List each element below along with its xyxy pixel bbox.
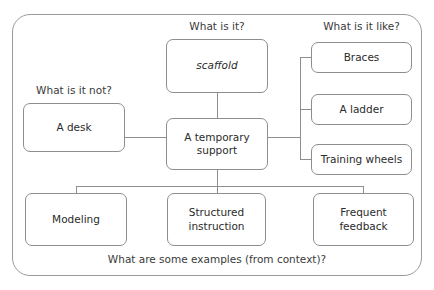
- connector-nonexample-to-definition: [125, 137, 166, 138]
- caption-what-is-it-like-text: What is it like?: [323, 20, 400, 32]
- node-example-frequent-feedback: Frequent feedback: [313, 193, 414, 246]
- connector-drop-frequent-feedback: [363, 186, 364, 193]
- node-term-scaffold: scaffold: [166, 39, 268, 93]
- connector-drop-structured-instruction: [217, 186, 218, 193]
- caption-what-is-it-like: What is it like?: [311, 20, 412, 33]
- node-example-structured-instruction: Structured instruction: [167, 193, 266, 246]
- frayer-model-diagram: What is it? What is it not? What is it l…: [0, 0, 434, 290]
- caption-examples: What are some examples (from context)?: [12, 253, 422, 266]
- node-similar-ladder: A ladder: [311, 94, 412, 125]
- node-example-modeling: Modeling: [25, 193, 127, 246]
- node-similar-training-wheels: Training wheels: [311, 144, 412, 175]
- caption-what-is-it-text: What is it?: [189, 20, 244, 32]
- node-definition-temporary-support: A temporary support: [166, 118, 268, 170]
- node-similar-braces-label: Braces: [340, 51, 384, 64]
- node-similar-training-wheels-label: Training wheels: [317, 153, 406, 166]
- node-similar-ladder-label: A ladder: [336, 103, 388, 116]
- connector-term-to-definition: [217, 93, 218, 118]
- caption-what-is-it-not-text: What is it not?: [36, 84, 112, 96]
- node-example-modeling-label: Modeling: [48, 213, 104, 226]
- connector-arm-training-wheels: [300, 159, 311, 160]
- caption-what-is-it-not: What is it not?: [23, 84, 125, 97]
- connector-examples-bus: [76, 186, 364, 187]
- node-term-scaffold-label: scaffold: [192, 59, 241, 72]
- node-similar-braces: Braces: [311, 42, 412, 73]
- node-example-frequent-feedback-label: Frequent feedback: [314, 206, 413, 232]
- node-nonexample-desk-label: A desk: [52, 121, 95, 134]
- connector-arm-ladder: [300, 109, 311, 110]
- connector-definition-to-similar-bracket: [268, 137, 301, 138]
- caption-examples-text: What are some examples (from context)?: [108, 253, 326, 265]
- node-nonexample-desk: A desk: [23, 103, 125, 152]
- connector-drop-modeling: [76, 186, 77, 193]
- node-example-structured-instruction-label: Structured instruction: [168, 206, 265, 232]
- connector-arm-braces: [300, 57, 311, 58]
- node-definition-label: A temporary support: [167, 131, 267, 157]
- caption-what-is-it: What is it?: [166, 20, 268, 33]
